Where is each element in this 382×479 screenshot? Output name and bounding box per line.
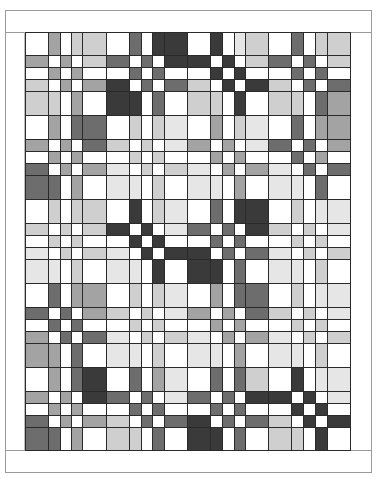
quilt-patch	[25, 175, 49, 200]
quilt-patch	[164, 427, 188, 451]
quilt-patch	[82, 199, 107, 224]
quilt-patch	[187, 199, 211, 224]
quilt-patch	[187, 427, 211, 451]
quilt-patch	[245, 199, 269, 224]
quilt-patch	[106, 199, 130, 224]
quilt-patch	[187, 259, 211, 284]
quilt-patch	[245, 32, 269, 56]
quilt-patch	[25, 367, 49, 392]
quilt-patch	[245, 343, 269, 368]
quilt-patch	[268, 367, 292, 392]
quilt-patch	[327, 115, 351, 140]
quilt-patch	[268, 91, 292, 116]
quilt-patch	[164, 175, 188, 200]
quilt-patch	[245, 283, 269, 308]
quilt-patch	[25, 427, 49, 451]
quilt-patch	[25, 259, 49, 284]
quilt-patch	[268, 115, 292, 140]
quilt-patch	[82, 367, 107, 392]
quilt-patch	[25, 115, 49, 140]
quilt-patch	[164, 343, 188, 368]
quilt-patch	[106, 427, 130, 451]
quilt-block-grid	[0, 0, 382, 479]
quilt-patch	[106, 91, 130, 116]
quilt-patch	[327, 32, 351, 56]
quilt-patch	[187, 115, 211, 140]
quilt-patch	[106, 343, 130, 368]
quilt-patch	[187, 343, 211, 368]
quilt-patch	[25, 343, 49, 368]
quilt-patch	[106, 259, 130, 284]
quilt-patch	[164, 259, 188, 284]
quilt-patch	[25, 32, 49, 56]
quilt-patch	[82, 175, 107, 200]
quilt-patch	[106, 32, 130, 56]
quilt-patch	[25, 283, 49, 308]
quilt-patch	[82, 427, 107, 451]
quilt-patch	[327, 91, 351, 116]
quilt-patch	[82, 115, 107, 140]
quilt-patch	[164, 367, 188, 392]
quilt-patch	[25, 91, 49, 116]
quilt-patch	[245, 427, 269, 451]
quilt-patch	[187, 32, 211, 56]
quilt-patch	[327, 283, 351, 308]
quilt-patch	[82, 259, 107, 284]
quilt-patch	[268, 343, 292, 368]
quilt-patch	[268, 175, 292, 200]
quilt-patch	[327, 175, 351, 200]
quilt-patch	[164, 91, 188, 116]
quilt-patch	[164, 199, 188, 224]
quilt-patch	[187, 175, 211, 200]
quilt-patch	[245, 259, 269, 284]
quilt-patch	[245, 115, 269, 140]
quilt-patch	[164, 283, 188, 308]
quilt-patch	[164, 32, 188, 56]
quilt-patch	[82, 32, 107, 56]
quilt-patch	[268, 32, 292, 56]
quilt-patch	[82, 283, 107, 308]
quilt-patch	[164, 115, 188, 140]
quilt-patch	[327, 427, 351, 451]
quilt-patch	[327, 259, 351, 284]
quilt-patch	[268, 427, 292, 451]
quilt-patch	[268, 283, 292, 308]
quilt-patch	[187, 283, 211, 308]
quilt-patch	[268, 199, 292, 224]
quilt-patch	[106, 283, 130, 308]
quilt-patch	[245, 175, 269, 200]
quilt-patch	[106, 115, 130, 140]
quilt-patch	[245, 91, 269, 116]
quilt-patch	[106, 367, 130, 392]
quilt-patch	[327, 367, 351, 392]
quilt-patch	[327, 343, 351, 368]
quilt-patch	[82, 343, 107, 368]
quilt-patch	[106, 175, 130, 200]
quilt-patch	[25, 199, 49, 224]
quilt-patch	[327, 199, 351, 224]
quilt-patch	[245, 367, 269, 392]
quilt-patch	[187, 367, 211, 392]
quilt-patch	[82, 91, 107, 116]
quilt-patch	[268, 259, 292, 284]
quilt-patch	[187, 91, 211, 116]
